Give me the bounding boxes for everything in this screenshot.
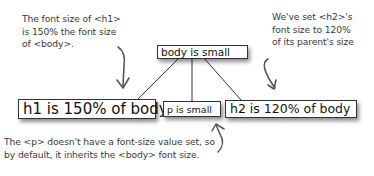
h1-annotation-line-3: of <body>.	[22, 38, 121, 51]
body-node: body is small	[157, 45, 248, 59]
p-node: p is small	[163, 101, 221, 117]
h1-annotation-line-1: The font size of <h1>	[22, 13, 121, 26]
p-annotation-line-2: by default, it inherits the <body> font …	[4, 149, 215, 162]
h1-node: h1 is 150% of body	[18, 99, 156, 119]
h2-annotation-line-3: of its parent's size	[272, 36, 354, 49]
h2-annotation-line-2: font size to 120%	[272, 24, 354, 37]
arrow-p-note	[216, 125, 223, 152]
p-annotation-line-1: The <p> doesn't have a font-size value s…	[4, 136, 215, 149]
h2-annotation: We've set <h2>'s font size to 120% of it…	[272, 11, 354, 49]
h2-annotation-line-1: We've set <h2>'s	[272, 11, 354, 24]
edge-body-h2	[203, 57, 241, 100]
arrow-h1-note	[118, 47, 124, 86]
arrow-h2-note	[264, 59, 275, 88]
h1-annotation-line-2: is 150% the font size	[22, 26, 121, 39]
edge-body-h1	[138, 57, 180, 99]
p-annotation: The <p> doesn't have a font-size value s…	[4, 136, 215, 161]
h2-node: h2 is 120% of body	[225, 100, 357, 118]
h1-annotation: The font size of <h1> is 150% the font s…	[22, 13, 121, 51]
